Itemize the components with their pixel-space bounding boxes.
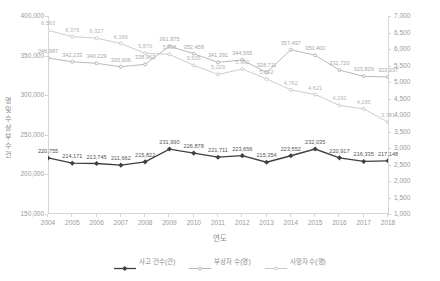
y-axis-right-tick-label: 5,000 [394, 78, 434, 85]
data-point-marker [70, 161, 75, 166]
data-point-marker [289, 48, 292, 51]
data-point-marker [95, 37, 98, 40]
data-point-label: 350,400 [305, 45, 325, 51]
data-point-marker [314, 54, 317, 57]
y-axis-left-tick-label: 150,000 [0, 210, 44, 217]
data-point-label: 4,185 [357, 99, 371, 105]
data-point-label: 331,720 [329, 60, 349, 66]
data-point-label: 5,229 [211, 64, 225, 70]
x-axis-tickmark [266, 214, 267, 217]
y-axis-title-char: 건 [1, 150, 15, 159]
data-point-marker [48, 29, 50, 32]
legend-item[interactable]: 사망자 수(명) [265, 256, 326, 266]
data-point-label: 216,335 [354, 151, 374, 157]
x-axis-tick-label: 2018 [373, 219, 403, 226]
data-point-marker [168, 53, 171, 56]
data-point-marker [192, 64, 195, 67]
series-lines [48, 16, 388, 214]
x-axis-tickmark [71, 214, 72, 217]
data-point-marker [361, 159, 366, 164]
data-point-label: 5,870 [138, 43, 152, 49]
x-axis-tickmark [120, 214, 121, 217]
data-point-label: 342,233 [62, 52, 82, 58]
data-point-marker [48, 56, 50, 59]
data-point-marker [313, 146, 318, 151]
data-point-label: 5,092 [260, 69, 274, 75]
data-point-marker [338, 104, 341, 107]
data-point-label: 221,711 [208, 147, 228, 153]
x-axis-tickmark [217, 214, 218, 217]
legend-label: 부상자 수(명) [214, 256, 250, 266]
y-axis-title: 명및수상부수건 [1, 96, 15, 159]
data-point-label: 340,229 [86, 53, 106, 59]
data-point-marker [215, 155, 220, 160]
y-axis-right-tickmark [388, 181, 391, 182]
legend-label: 사고 건수(건) [139, 256, 175, 266]
y-axis-right-tickmark [388, 214, 391, 215]
data-point-label: 6,563 [41, 20, 55, 26]
data-point-marker [71, 60, 74, 63]
data-point-marker [191, 151, 196, 156]
y-axis-right-tickmark [388, 198, 391, 199]
y-axis-title-char: 및 [1, 105, 15, 114]
y-axis-right-tickmark [388, 49, 391, 50]
legend-item[interactable]: 부상자 수(명) [189, 256, 250, 266]
y-axis-right-tick-label: 1,000 [394, 210, 434, 217]
data-point-label: 4,292 [332, 95, 346, 101]
data-point-marker [338, 69, 341, 72]
y-axis-left-tick-label: 200,000 [0, 170, 44, 177]
legend-item[interactable]: 사고 건수(건) [114, 256, 175, 266]
data-point-label: 215,822 [135, 152, 155, 158]
data-point-label: 232,035 [305, 139, 325, 145]
y-axis-right-tickmark [388, 165, 391, 166]
data-point-label: 6,166 [114, 34, 128, 40]
data-point-label: 341,391 [208, 52, 228, 58]
data-point-marker [118, 163, 123, 168]
data-point-label: 220,755 [38, 148, 58, 154]
y-axis-title-char: 수 [1, 114, 15, 123]
plot-area: 220,755214,171213,745211,662215,822231,9… [48, 16, 388, 214]
data-point-marker [48, 155, 51, 160]
legend-marker-icon [114, 258, 136, 265]
data-point-label: 323,037 [378, 67, 398, 73]
y-axis-right-tick-label: 1,500 [394, 194, 434, 201]
x-axis-tickmark [314, 214, 315, 217]
x-axis-tickmark [241, 214, 242, 217]
data-point-label: 323,829 [354, 66, 374, 72]
data-point-marker [94, 161, 99, 166]
data-point-label: 6,376 [65, 27, 79, 33]
data-point-marker [264, 160, 269, 165]
y-axis-right-tick-label: 3,500 [394, 128, 434, 135]
x-axis-tickmark [338, 214, 339, 217]
y-axis-right-tick-label: 3,000 [394, 144, 434, 151]
data-point-label: 4,621 [308, 85, 322, 91]
data-point-marker [362, 107, 365, 110]
data-point-marker [71, 35, 74, 38]
data-point-marker [337, 155, 342, 160]
data-point-label: 223,552 [281, 146, 301, 152]
data-point-marker [119, 65, 122, 68]
data-point-label: 344,565 [232, 50, 252, 56]
y-axis-right-tick-label: 4,500 [394, 95, 434, 102]
y-axis-right-tick-label: 2,000 [394, 177, 434, 184]
legend-label: 사망자 수(명) [290, 256, 326, 266]
data-point-marker [385, 158, 388, 163]
y-axis-right-tick-label: 6,000 [394, 45, 434, 52]
data-point-label: 346,987 [38, 48, 58, 54]
data-point-marker [167, 147, 172, 152]
x-axis-tickmark [47, 214, 48, 217]
data-point-marker [265, 77, 268, 80]
data-point-label: 226,878 [184, 143, 204, 149]
x-axis-tickmark [193, 214, 194, 217]
data-point-label: 220,917 [329, 148, 349, 154]
y-axis-right-tickmark [388, 16, 391, 17]
data-point-label: 6,327 [90, 28, 104, 34]
legend-marker-icon [265, 258, 287, 265]
data-point-label: 3,781 [381, 112, 395, 118]
x-axis-tickmark [387, 214, 388, 217]
data-point-label: 215,354 [256, 152, 276, 158]
data-point-marker [289, 88, 292, 91]
data-point-label: 361,875 [159, 36, 179, 42]
data-point-label: 213,745 [86, 154, 106, 160]
data-point-label: 231,990 [159, 139, 179, 145]
